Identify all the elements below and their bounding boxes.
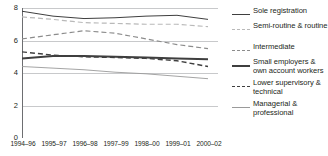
legend-item[interactable]: Lower supervisory & technical <box>232 78 328 96</box>
plot-svg <box>22 8 218 138</box>
legend-swatch-icon <box>232 24 250 33</box>
x-tick-label: 1998–00 <box>132 141 163 148</box>
chart-legend: Sole registrationSemi-routine & routineI… <box>232 6 328 138</box>
y-tick-label: 8 <box>4 4 18 12</box>
legend-item-label: Managerial & professional <box>253 99 328 117</box>
legend-item-label: Lower supervisory & technical <box>253 78 328 96</box>
y-tick-label: 2 <box>4 102 18 110</box>
legend-swatch-icon <box>232 9 250 18</box>
legend-item-label: Small employers & own account workers <box>253 57 328 75</box>
series-line <box>22 67 208 79</box>
series-line <box>22 56 208 59</box>
y-tick-label: 6 <box>4 37 18 45</box>
series-line <box>22 17 208 27</box>
legend-swatch-icon <box>232 81 250 90</box>
legend-swatch-icon <box>232 60 250 69</box>
x-tick-label: 1996–98 <box>70 141 101 148</box>
legend-swatch-icon <box>232 45 250 54</box>
legend-swatch-icon <box>232 102 250 111</box>
x-tick-label: 2000–02 <box>194 141 225 148</box>
legend-item-label: Sole registration <box>253 6 307 15</box>
x-tick-label: 1995–97 <box>39 141 70 148</box>
y-tick-label: 4 <box>4 69 18 77</box>
line-chart: 02468 1994–961995–971996–981997–991998–0… <box>0 0 328 156</box>
legend-item[interactable]: Intermediate <box>232 42 295 54</box>
legend-item-label: Semi-routine & routine <box>253 21 327 30</box>
legend-item[interactable]: Semi-routine & routine <box>232 21 327 33</box>
x-tick-label: 1999–01 <box>163 141 194 148</box>
x-tick-label: 1994–96 <box>8 141 39 148</box>
x-axis: 1994–961995–971996–981997–991998–001999–… <box>22 141 228 155</box>
x-tick-label: 1997–99 <box>101 141 132 148</box>
plot-area <box>22 8 218 138</box>
legend-item[interactable]: Sole registration <box>232 6 307 18</box>
legend-item[interactable]: Small employers & own account workers <box>232 57 328 75</box>
series-line <box>22 11 208 19</box>
legend-item-label: Intermediate <box>253 42 295 51</box>
legend-item[interactable]: Managerial & professional <box>232 99 328 117</box>
y-axis: 02468 <box>0 0 18 156</box>
series-line <box>22 31 208 49</box>
